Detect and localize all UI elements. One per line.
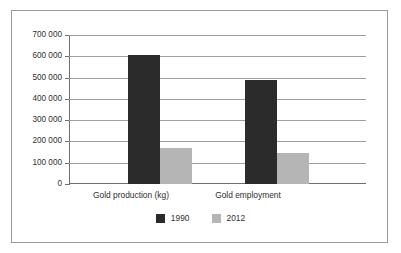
gridline-600000	[69, 56, 366, 57]
legend-label-2012: 2012	[227, 214, 246, 222]
y-tick-label-400000: 400 000	[32, 95, 62, 103]
plot-area	[69, 35, 366, 184]
y-tick-label-600000: 600 000	[32, 52, 62, 60]
legend-swatch-1990-icon	[156, 214, 165, 223]
gridline-100000	[69, 163, 366, 164]
y-tick-label-500000: 500 000	[32, 74, 62, 82]
gridline-baseline-0	[69, 183, 366, 184]
legend-entry-1990: 1990	[156, 214, 190, 223]
legend-entry-2012: 2012	[212, 214, 246, 223]
gridline-400000	[69, 99, 366, 100]
bar-1990-gold-production	[128, 55, 160, 184]
y-tick-label-0: 0	[57, 180, 62, 188]
y-axis-tick-labels: 700 000 600 000 500 000 400 000 300 000 …	[12, 11, 62, 244]
gridline-200000	[69, 141, 366, 142]
x-category-label-gold-employment: Gold employment	[185, 191, 311, 199]
legend-swatch-2012-icon	[212, 214, 221, 223]
chart-legend: 1990 2012	[12, 214, 389, 223]
legend-label-1990: 1990	[171, 214, 190, 222]
bar-2012-gold-production	[160, 148, 192, 184]
y-tick-label-300000: 300 000	[32, 116, 62, 124]
gridline-700000	[69, 35, 366, 36]
x-category-label-gold-production: Gold production (kg)	[68, 191, 194, 199]
chart-figure: 700 000 600 000 500 000 400 000 300 000 …	[0, 0, 401, 253]
y-tick-label-200000: 200 000	[32, 137, 62, 145]
gridline-500000	[69, 78, 366, 79]
bar-1990-gold-employment	[245, 80, 277, 184]
y-tick-label-100000: 100 000	[32, 159, 62, 167]
y-tick-label-700000: 700 000	[32, 31, 62, 39]
bar-2012-gold-employment	[277, 153, 309, 184]
chart-frame: 700 000 600 000 500 000 400 000 300 000 …	[11, 10, 388, 243]
gridline-300000	[69, 120, 366, 121]
